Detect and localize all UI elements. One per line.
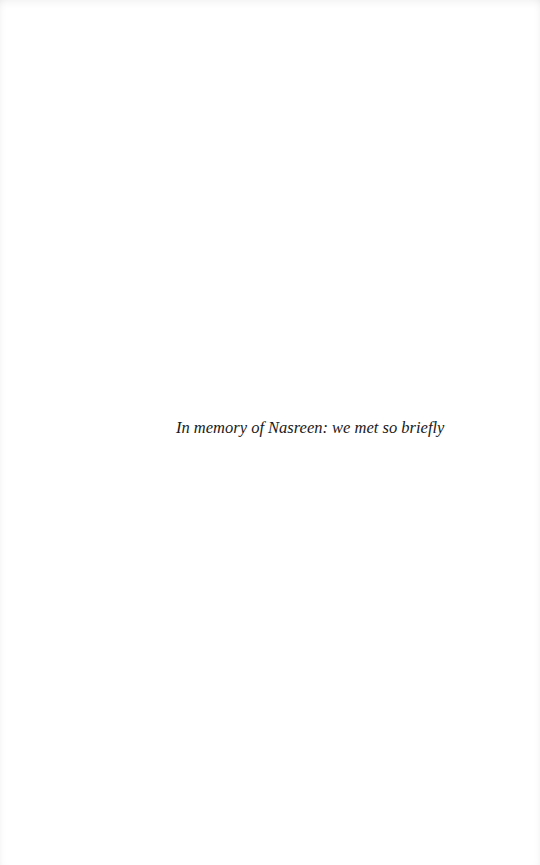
book-page: In memory of Nasreen: we met so briefly bbox=[0, 0, 540, 865]
dedication-text: In memory of Nasreen: we met so briefly bbox=[176, 418, 406, 438]
